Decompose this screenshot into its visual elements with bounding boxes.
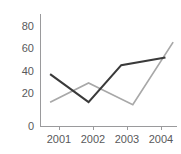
y-axis-tick-labels: 80 60 40 20 0 (22, 20, 34, 132)
x-tick-label-2001: 2001 (47, 133, 71, 145)
x-axis-tick-labels: 2001 2002 2003 2004 (47, 133, 173, 145)
y-tick-label-60: 60 (22, 42, 34, 54)
x-tick-label-2002: 2002 (81, 133, 105, 145)
x-tick-label-2003: 2003 (115, 133, 139, 145)
y-tick-label-40: 40 (22, 65, 34, 77)
y-tick-label-0: 0 (28, 120, 34, 132)
y-tick-label-80: 80 (22, 20, 34, 32)
x-tick-label-2004: 2004 (149, 133, 173, 145)
line-chart: 80 60 40 20 0 2001 2002 2003 2004 (0, 0, 181, 154)
chart-canvas: 80 60 40 20 0 2001 2002 2003 2004 (0, 0, 181, 154)
series-line-2 (50, 42, 173, 105)
y-tick-label-20: 20 (22, 87, 34, 99)
